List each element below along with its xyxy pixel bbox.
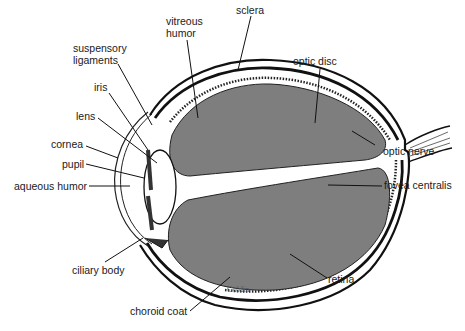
vitreous-humor-lower: [168, 168, 389, 290]
label-vitreous-humor: vitreous humor: [166, 15, 203, 39]
label-vitreous-line1: vitreous: [166, 15, 203, 27]
label-retina: retina: [328, 273, 354, 285]
label-lens: lens: [76, 110, 95, 122]
label-suspensory-ligaments: suspensory ligaments: [73, 42, 127, 66]
cornea-outline: [115, 112, 148, 246]
label-aqueous-humor: aqueous humor: [14, 180, 87, 192]
label-fovea-centralis: fovea centralis: [384, 179, 452, 191]
label-sclera: sclera: [236, 4, 264, 16]
label-suspensory-line2: ligaments: [73, 54, 127, 66]
label-optic-disc: optic disc: [293, 55, 337, 67]
label-pupil: pupil: [62, 158, 84, 170]
vitreous-humor-upper: [170, 84, 386, 176]
label-ciliary-body: ciliary body: [72, 264, 125, 276]
eye-diagram: vitreous humor sclera suspensory ligamen…: [0, 0, 465, 331]
label-suspensory-line1: suspensory: [73, 42, 127, 54]
label-iris: iris: [94, 81, 107, 93]
label-vitreous-line2: humor: [166, 27, 203, 39]
label-optic-nerve: optic nerve: [383, 145, 434, 157]
artist-signature: Goldin: [227, 285, 249, 294]
label-choroid-coat: choroid coat: [130, 305, 187, 317]
label-cornea: cornea: [51, 138, 83, 150]
